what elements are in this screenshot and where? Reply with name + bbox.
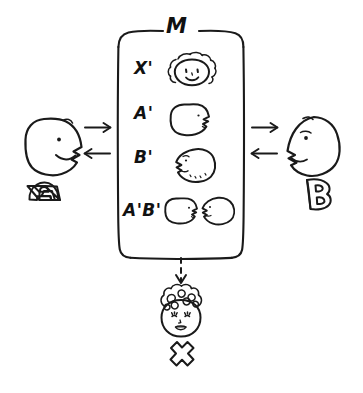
- arrow-b-to-box: [252, 123, 278, 132]
- row-icon-a-prime: [171, 104, 209, 135]
- row-label-a-prime-b-prime: A'B': [123, 200, 162, 220]
- box-label-m: M: [166, 14, 187, 38]
- arrow-box-to-result: [176, 258, 186, 283]
- row-icon-x-prime: [168, 52, 216, 85]
- diagram-canvas: [0, 0, 363, 393]
- row-icon-a-prime-b-prime: [165, 198, 234, 225]
- row-icon-b-prime: [176, 149, 215, 182]
- actor-a-bubble-label: [28, 183, 61, 200]
- actor-a-head: [25, 119, 81, 176]
- result-face-x: [161, 284, 202, 336]
- arrow-box-to-a: [85, 149, 111, 158]
- row-label-b-prime: B': [134, 147, 153, 167]
- actor-b-bubble-label: [307, 179, 331, 209]
- row-label-x-prime: X': [134, 58, 153, 78]
- result-bubble-label: [171, 342, 194, 366]
- arrow-box-to-b: [252, 149, 278, 158]
- row-label-a-prime: A': [134, 103, 153, 123]
- arrow-a-to-box: [85, 123, 111, 132]
- actor-b-head: [288, 117, 340, 176]
